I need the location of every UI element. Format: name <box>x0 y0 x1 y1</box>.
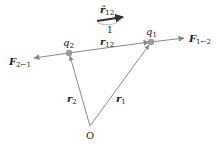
force-1-from-2-label: F1←2 <box>188 33 211 46</box>
unit-vector-label: r̂12 <box>100 4 114 17</box>
charge-q2 <box>66 50 72 56</box>
unit-magnitude-label: 1 <box>107 25 113 35</box>
separation-vector-label: r12 <box>100 36 114 49</box>
charge-q1-label: q1 <box>146 26 157 39</box>
position-vector-r1-label: r1 <box>116 93 126 106</box>
position-vector-r2 <box>70 56 90 126</box>
coulomb-diagram: r̂12 1 q2 q1 r12 F1←2 F2←1 r2 r1 O <box>0 0 216 146</box>
position-vector-r1 <box>90 45 149 126</box>
position-vector-r2-label: r2 <box>67 93 77 106</box>
unit-vector-r12: r̂12 1 <box>97 4 123 35</box>
origin-label: O <box>86 130 94 141</box>
force-2-from-1-arrow <box>34 53 69 58</box>
charge-q1 <box>148 39 154 45</box>
force-2-from-1-label: F2←1 <box>8 56 31 69</box>
unit-vector-arrow <box>97 17 123 21</box>
charge-q2-label: q2 <box>63 37 74 50</box>
